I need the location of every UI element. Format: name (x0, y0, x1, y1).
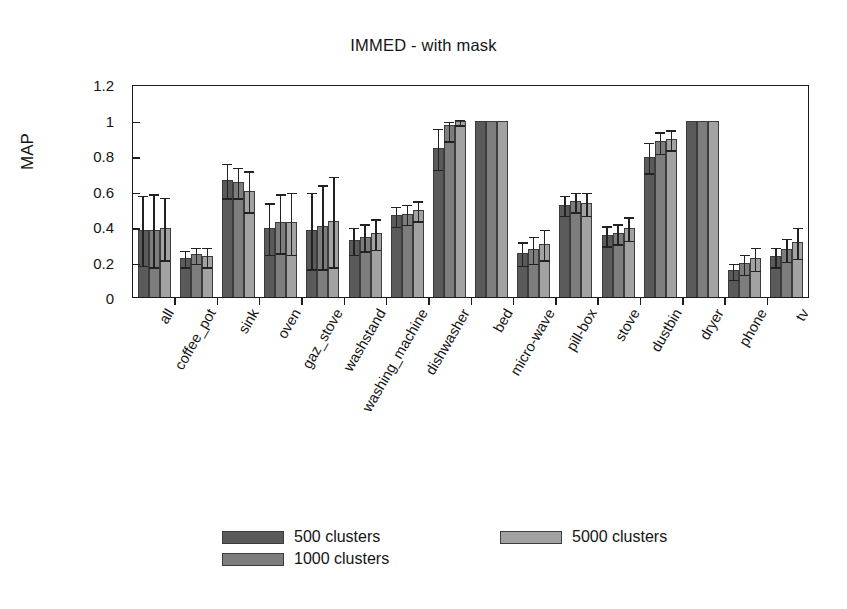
bar-slot (328, 86, 339, 297)
bar-group[interactable] (260, 86, 302, 297)
bar[interactable] (644, 157, 655, 297)
error-cap-bottom (613, 244, 623, 245)
bar-group[interactable] (724, 86, 766, 297)
error-cap-top (391, 207, 401, 208)
bar-slot (402, 86, 413, 297)
error-cap-bottom (402, 225, 412, 226)
y-tick-label: 0.4 (93, 219, 114, 236)
x-tick-label: dishwasher (423, 306, 474, 378)
bar[interactable] (486, 121, 497, 297)
bar[interactable] (666, 139, 677, 297)
bar-slot (202, 86, 213, 297)
legend-entry-1000-clusters: 1000 clusters (222, 550, 389, 568)
x-tick-label: all (156, 306, 177, 327)
error-bar (575, 193, 576, 214)
bar-slot (233, 86, 244, 297)
error-cap-bottom (307, 269, 317, 270)
error-cap-top (276, 194, 286, 195)
bar[interactable] (444, 125, 455, 297)
bar-group[interactable] (597, 86, 639, 297)
error-bar (606, 226, 607, 247)
error-cap-top (318, 185, 328, 186)
error-cap-bottom (644, 173, 654, 174)
bar-slot (613, 86, 624, 297)
x-tick-label: dustbin (648, 306, 685, 355)
bar[interactable] (559, 205, 570, 297)
error-cap-bottom (782, 262, 792, 263)
error-cap-top (222, 164, 232, 165)
error-bar (333, 177, 334, 269)
bar-group[interactable] (639, 86, 681, 297)
bar[interactable] (655, 141, 666, 297)
error-bar (522, 242, 523, 267)
error-bar (533, 237, 534, 265)
bar-slot (180, 86, 191, 297)
bar-group[interactable] (133, 86, 175, 297)
error-cap-top (666, 130, 676, 131)
x-tick-label: oven (274, 306, 304, 341)
error-cap-top (371, 219, 381, 220)
bar-slot (371, 86, 382, 297)
y-tick-mark (133, 157, 140, 159)
bar-group[interactable] (386, 86, 428, 297)
error-cap-bottom (349, 255, 359, 256)
bar[interactable] (413, 210, 424, 297)
bar-group[interactable] (428, 86, 470, 297)
error-bar (797, 228, 798, 260)
legend-label-500-clusters: 500 clusters (294, 528, 380, 546)
error-cap-top (402, 205, 412, 206)
error-bar (291, 193, 292, 257)
y-tick-label: 1.2 (93, 77, 114, 94)
bar-slot (160, 86, 171, 297)
bar-slot (455, 86, 466, 297)
error-bar (238, 168, 239, 200)
bar-group[interactable] (344, 86, 386, 297)
x-tick-label: washstand (340, 306, 389, 374)
error-bar (364, 224, 365, 252)
bar-group[interactable] (302, 86, 344, 297)
bar-group[interactable] (513, 86, 555, 297)
bar-group[interactable] (471, 86, 513, 297)
bar-slot (539, 86, 550, 297)
bar-group[interactable] (766, 86, 808, 297)
error-bar (775, 248, 776, 269)
bar[interactable] (475, 121, 486, 297)
error-cap-bottom (518, 266, 528, 267)
bar[interactable] (686, 121, 697, 297)
bar[interactable] (708, 121, 719, 297)
error-cap-top (202, 248, 212, 249)
y-tick-label: 0.8 (93, 148, 114, 165)
bar-slot (655, 86, 666, 297)
error-bar (544, 230, 545, 262)
legend-swatch-500-clusters (222, 531, 284, 544)
y-tick-label: 1 (106, 112, 114, 129)
error-bar (322, 185, 323, 270)
error-bar (671, 130, 672, 151)
error-cap-bottom (602, 246, 612, 247)
error-cap-bottom (655, 154, 665, 155)
error-cap-bottom (329, 267, 339, 268)
error-bar (249, 171, 250, 214)
bar[interactable] (497, 121, 508, 297)
bar-group[interactable] (555, 86, 597, 297)
y-tick-label: 0.6 (93, 183, 114, 200)
bar-group[interactable] (217, 86, 259, 297)
error-bar (280, 194, 281, 254)
error-cap-top (455, 120, 465, 121)
bar-group[interactable] (681, 86, 723, 297)
bar[interactable] (570, 201, 581, 297)
error-cap-bottom (160, 260, 170, 261)
error-cap-top (771, 248, 781, 249)
bar[interactable] (697, 121, 708, 297)
error-cap-bottom (244, 212, 254, 213)
error-cap-top (233, 168, 243, 169)
bar-group[interactable] (175, 86, 217, 297)
error-cap-top (529, 237, 539, 238)
error-bar (142, 196, 143, 267)
bar[interactable] (455, 121, 466, 297)
error-bar (649, 143, 650, 175)
error-bar (733, 264, 734, 282)
legend-entry-500-clusters: 500 clusters (222, 528, 380, 546)
error-cap-bottom (771, 267, 781, 268)
bar-slot (528, 86, 539, 297)
